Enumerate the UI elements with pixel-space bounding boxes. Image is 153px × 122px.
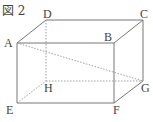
- diagonal-AG: [17, 43, 143, 81]
- vertex-label-F: F: [113, 103, 120, 117]
- vertex-label-H: H: [44, 81, 53, 95]
- vertex-label-C: C: [140, 7, 148, 21]
- vertex-label-B: B: [104, 30, 112, 44]
- edge-FG: [114, 81, 143, 103]
- edge-DA: [17, 20, 46, 43]
- edge-BC: [114, 20, 143, 43]
- vertex-label-A: A: [4, 36, 13, 50]
- vertex-label-G: G: [141, 81, 150, 95]
- vertex-label-D: D: [43, 7, 52, 21]
- vertex-label-E: E: [6, 103, 13, 117]
- hidden-edge-EH: [17, 81, 46, 103]
- rectangular-prism-diagram: A B C D E F G H: [0, 0, 153, 122]
